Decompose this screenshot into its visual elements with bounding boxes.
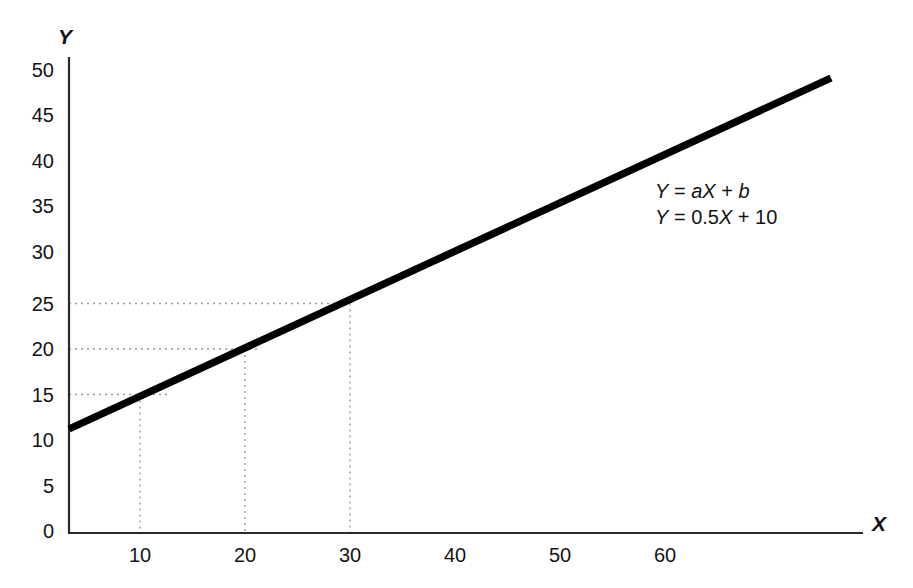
y-tick-label-20: 20 (10, 339, 54, 359)
vertical-guide-lines (140, 304, 350, 534)
general-equation-equals: = (668, 180, 691, 202)
linear-function-chart: Y X 50 45 40 35 30 25 20 15 10 5 0 10 20… (0, 0, 913, 588)
specific-equation-lhs: Y (655, 206, 668, 228)
specific-equation-constant: + 10 (732, 206, 777, 228)
y-tick-label-0: 0 (10, 521, 54, 541)
general-equation-coefficient: aX (691, 180, 715, 202)
y-tick-label-30: 30 (10, 242, 54, 262)
y-tick-label-25: 25 (10, 294, 54, 314)
y-axis-title: Y (58, 26, 72, 47)
general-equation-line: Y = aX + b (655, 178, 777, 204)
data-line-series-1 (69, 78, 831, 429)
specific-equation-line: Y = 0.5X + 10 (655, 204, 777, 230)
general-equation-constant: b (738, 180, 749, 202)
y-tick-label-40: 40 (10, 151, 54, 171)
general-equation-plus: + (716, 180, 739, 202)
x-tick-label-40: 40 (432, 545, 478, 565)
y-tick-label-10: 10 (10, 430, 54, 450)
x-tick-label-20: 20 (222, 545, 268, 565)
x-tick-label-50: 50 (537, 545, 583, 565)
specific-equation-variable: X (719, 206, 732, 228)
specific-equation-equals-coefficient: = 0.5 (668, 206, 719, 228)
y-tick-label-15: 15 (10, 385, 54, 405)
x-axis-title: X (872, 513, 886, 534)
equation-annotation-block: Y = aX + b Y = 0.5X + 10 (655, 178, 777, 230)
x-tick-label-60: 60 (642, 545, 688, 565)
general-equation-lhs: Y (655, 180, 668, 202)
y-tick-label-5: 5 (10, 476, 54, 496)
plot-area (0, 0, 913, 588)
y-tick-label-45: 45 (10, 105, 54, 125)
y-tick-label-35: 35 (10, 196, 54, 216)
x-tick-label-30: 30 (327, 545, 373, 565)
x-tick-label-10: 10 (117, 545, 163, 565)
y-tick-label-50: 50 (10, 60, 54, 80)
